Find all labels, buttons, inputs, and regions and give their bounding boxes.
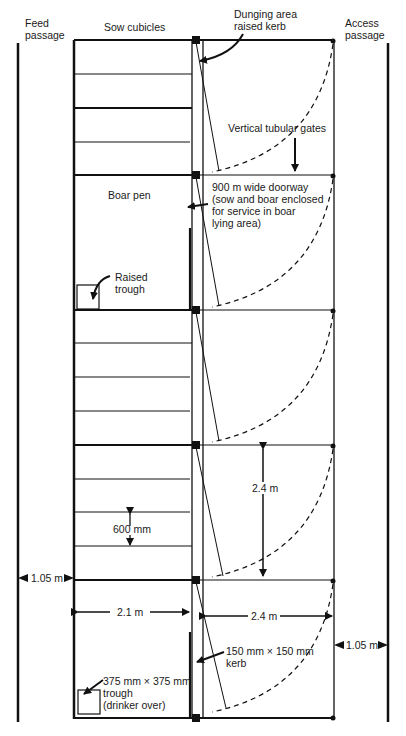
dimension-1-05m-right: 1.05 m [346,639,378,651]
sow-cubicles-label: Sow cubicles [104,21,165,33]
access-passage-label: Access passage [345,17,385,41]
boar-pen-label: Boar pen [108,189,151,201]
doorway-label: 900 m wide doorway (sow and boar enclose… [212,181,324,229]
dimension-2-1m: 2.1 m [117,606,143,618]
kerb-label: 150 mm × 150 mm kerb [226,645,314,669]
dimension-600mm: 600 mm [113,523,151,535]
trough-label: 375 mm × 375 mm trough (drinker over) [103,675,191,711]
dunging-area-label: Dunging area raised kerb [234,8,297,32]
floor-plan-drawing [0,0,406,736]
dimension-1-05m-left: 1.05 m [31,572,63,584]
dimension-2-4m-horizontal: 2.4 m [251,610,277,622]
vertical-gates-label: Vertical tubular gates [228,122,326,134]
raised-trough-label: Raised trough [115,271,148,295]
dimension-2-4m-vertical: 2.4 m [252,482,278,494]
water-trough [78,690,100,714]
feed-passage-label: Feed passage [25,17,65,41]
